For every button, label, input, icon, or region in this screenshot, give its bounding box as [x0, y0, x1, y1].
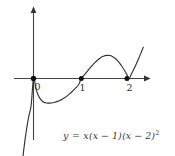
root-point-1: [79, 76, 84, 81]
equation-lhs: y: [62, 130, 69, 141]
root-point-2: [125, 76, 130, 81]
y-axis-arrowhead-icon: [31, 7, 37, 14]
equation-annotation: y=x(x − 1)(x − 2)2: [62, 129, 159, 141]
graph-canvas: 0 1 2 y=x(x − 1)(x − 2)2: [0, 0, 175, 156]
x-tick-label-0: 0: [34, 81, 40, 92]
x-axis-arrowhead-icon: [144, 76, 151, 82]
x-tick-label-2: 2: [126, 82, 132, 93]
equation-factor-3: (x − 2): [122, 130, 155, 141]
equation-equals: =: [72, 130, 80, 141]
equation-exponent: 2: [155, 129, 159, 137]
y-axis: [31, 7, 37, 141]
x-tick-label-1: 1: [79, 82, 85, 93]
equation-factor-2: (x − 1): [89, 130, 122, 141]
polynomial-graph-figure: 0 1 2 y=x(x − 1)(x − 2)2: [0, 0, 175, 156]
